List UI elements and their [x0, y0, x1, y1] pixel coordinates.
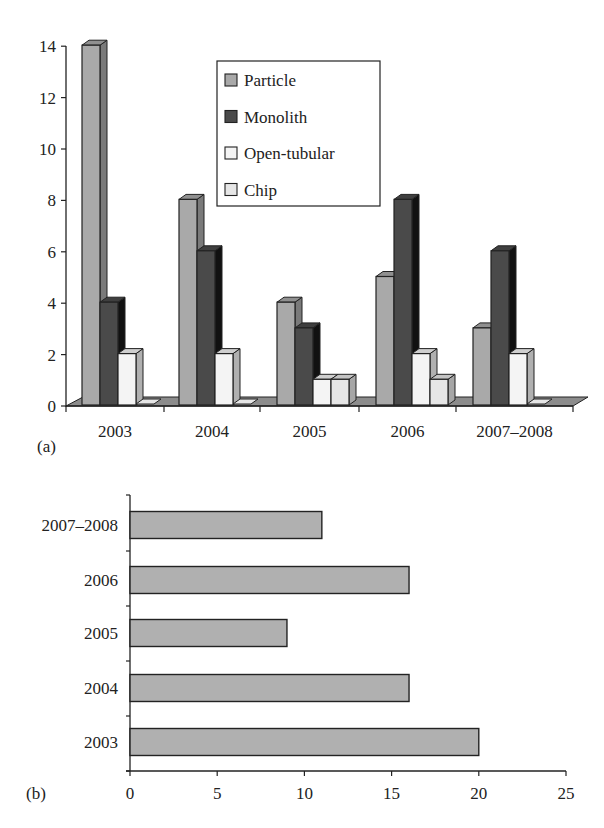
chart-b-category-label: 2003	[84, 733, 118, 752]
chart-b-bar	[130, 567, 409, 594]
chart-b-category-label: 2004	[84, 679, 119, 698]
chart-b-bar	[130, 729, 479, 756]
chart-b-horizontal-bar: 051015202520032004200520062007–2008(b)	[0, 0, 604, 828]
chart-b-category-label: 2005	[84, 624, 118, 643]
chart-b-category-label: 2007–2008	[42, 516, 119, 535]
chart-b-x-tick-label: 5	[213, 784, 222, 803]
chart-b-x-tick-label: 25	[558, 784, 575, 803]
chart-b-bar	[130, 620, 287, 647]
chart-b-x-tick-label: 0	[126, 784, 135, 803]
chart-b-bar	[130, 675, 409, 702]
panel-label-b: (b)	[26, 784, 46, 803]
chart-b-bar	[130, 512, 322, 539]
chart-b-x-tick-label: 20	[470, 784, 487, 803]
chart-b-x-tick-label: 10	[296, 784, 313, 803]
chart-b-x-tick-label: 15	[383, 784, 400, 803]
chart-b-category-label: 2006	[84, 571, 118, 590]
